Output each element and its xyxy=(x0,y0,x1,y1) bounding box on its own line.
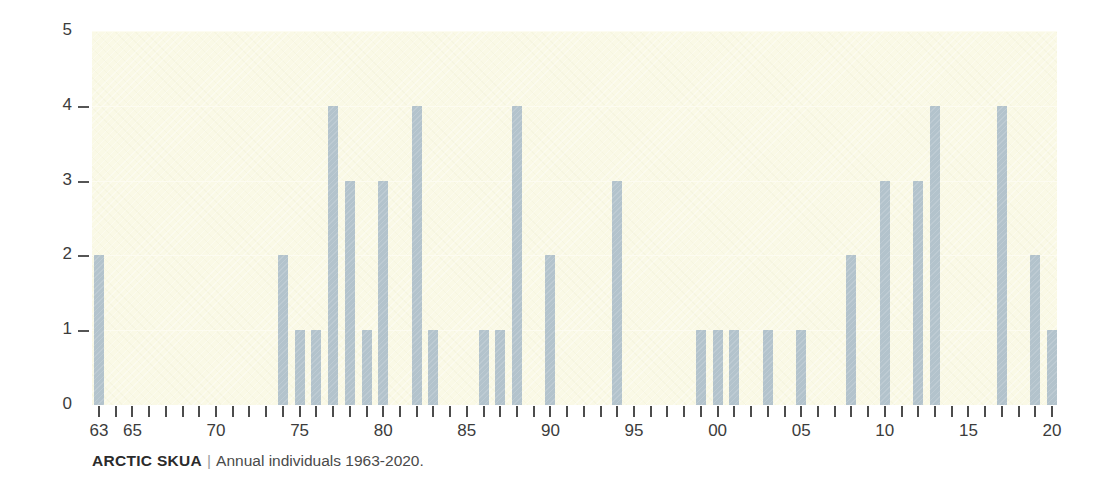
caption-species-name: ARCTIC SKUA xyxy=(92,452,202,469)
y-axis-label-3: 3 xyxy=(38,170,72,190)
x-axis-tick-1989 xyxy=(533,406,535,417)
x-axis-tick-1985 xyxy=(466,406,468,417)
y-axis-label-1: 1 xyxy=(38,319,72,339)
x-axis-tick-2012 xyxy=(917,406,919,417)
x-axis-tick-1994 xyxy=(616,406,618,417)
bar-1990 xyxy=(545,255,555,405)
x-axis-tick-2017 xyxy=(1001,406,1003,417)
x-axis-label-85: 85 xyxy=(447,421,487,441)
x-axis-tick-1972 xyxy=(248,406,250,417)
bar-2008 xyxy=(846,255,856,405)
bar-1982 xyxy=(412,106,422,405)
x-axis-label-90: 90 xyxy=(530,421,570,441)
bar-1988 xyxy=(512,106,522,405)
bar-1974 xyxy=(278,255,288,405)
x-axis-label-80: 80 xyxy=(363,421,403,441)
x-axis-label-75: 75 xyxy=(280,421,320,441)
x-axis-tick-2018 xyxy=(1018,406,1020,417)
x-axis-label-20: 20 xyxy=(1032,421,1072,441)
x-axis-tick-1984 xyxy=(449,406,451,417)
x-axis-tick-2007 xyxy=(834,406,836,417)
gridline-4 xyxy=(92,106,1057,107)
bar-2000 xyxy=(713,330,723,405)
x-axis-tick-2013 xyxy=(934,406,936,417)
x-axis-tick-1970 xyxy=(215,406,217,417)
chart-caption: ARCTIC SKUA|Annual individuals 1963-2020… xyxy=(92,452,424,470)
bar-1980 xyxy=(378,181,388,405)
bar-2001 xyxy=(729,330,739,405)
x-axis-tick-2002 xyxy=(750,406,752,417)
x-axis-tick-1967 xyxy=(165,406,167,417)
x-axis-tick-2019 xyxy=(1034,406,1036,417)
x-axis-tick-2006 xyxy=(817,406,819,417)
x-axis-tick-1992 xyxy=(583,406,585,417)
bar-1994 xyxy=(612,181,622,405)
x-axis-tick-1966 xyxy=(148,406,150,417)
x-axis-label-95: 95 xyxy=(614,421,654,441)
caption-separator: | xyxy=(202,452,216,469)
x-axis-tick-1969 xyxy=(198,406,200,417)
bar-2017 xyxy=(997,106,1007,405)
x-axis-tick-1978 xyxy=(349,406,351,417)
x-axis-tick-1975 xyxy=(299,406,301,417)
gridline-1 xyxy=(92,330,1057,331)
x-axis-tick-1998 xyxy=(683,406,685,417)
x-axis-labels: 63657075808590950005101520 xyxy=(92,421,1072,447)
y-axis-tick-1 xyxy=(78,330,89,332)
y-axis-label-2: 2 xyxy=(38,244,72,264)
y-axis-label-0: 0 xyxy=(38,394,72,414)
bar-2003 xyxy=(763,330,773,405)
x-axis-tick-1973 xyxy=(265,406,267,417)
arctic-skua-chart-figure: 012345 63657075808590950005101520 ARCTIC… xyxy=(0,0,1112,497)
chart-plot-area xyxy=(92,31,1057,405)
x-axis-tick-1979 xyxy=(366,406,368,417)
gridline-2 xyxy=(92,255,1057,256)
x-axis-tick-2020 xyxy=(1051,406,1053,417)
x-axis-tick-2009 xyxy=(867,406,869,417)
x-axis-tick-1987 xyxy=(499,406,501,417)
bar-1983 xyxy=(428,330,438,405)
x-axis-tick-1971 xyxy=(232,406,234,417)
bar-1987 xyxy=(495,330,505,405)
bar-1975 xyxy=(295,330,305,405)
x-axis-tick-2014 xyxy=(951,406,953,417)
x-axis-tick-2015 xyxy=(967,406,969,417)
bar-2005 xyxy=(796,330,806,405)
y-axis-label-4: 4 xyxy=(38,95,72,115)
x-axis-tick-2001 xyxy=(733,406,735,417)
x-axis-tick-2016 xyxy=(984,406,986,417)
x-axis-tick-1963 xyxy=(98,406,100,417)
x-axis-tick-1988 xyxy=(516,406,518,417)
y-axis-tick-2 xyxy=(78,255,89,257)
y-axis-tick-3 xyxy=(78,181,89,183)
x-axis-label-00: 00 xyxy=(698,421,738,441)
x-axis-tick-2010 xyxy=(884,406,886,417)
x-axis-tick-2004 xyxy=(784,406,786,417)
x-axis-label-65: 65 xyxy=(112,421,152,441)
x-axis-tick-1990 xyxy=(549,406,551,417)
x-axis-tick-1997 xyxy=(666,406,668,417)
bar-2019 xyxy=(1030,255,1040,405)
x-axis-tick-1995 xyxy=(633,406,635,417)
bar-1986 xyxy=(479,330,489,405)
x-axis-label-70: 70 xyxy=(196,421,236,441)
x-axis-tick-2005 xyxy=(800,406,802,417)
x-axis-tick-1983 xyxy=(432,406,434,417)
x-axis-label-15: 15 xyxy=(948,421,988,441)
x-axis-tick-1964 xyxy=(115,406,117,417)
x-axis-tick-1968 xyxy=(182,406,184,417)
bar-2013 xyxy=(930,106,940,405)
x-axis-tick-1999 xyxy=(700,406,702,417)
bar-2020 xyxy=(1047,330,1057,405)
bar-2010 xyxy=(880,181,890,405)
bar-1999 xyxy=(696,330,706,405)
x-axis-tick-1996 xyxy=(650,406,652,417)
bar-1977 xyxy=(328,106,338,405)
bar-2012 xyxy=(913,181,923,405)
x-axis-tick-1965 xyxy=(131,406,133,417)
x-axis-tick-1981 xyxy=(399,406,401,417)
x-axis-ticks xyxy=(92,406,1057,418)
x-axis-label-10: 10 xyxy=(865,421,905,441)
x-axis-tick-1980 xyxy=(382,406,384,417)
x-axis-tick-2003 xyxy=(767,406,769,417)
